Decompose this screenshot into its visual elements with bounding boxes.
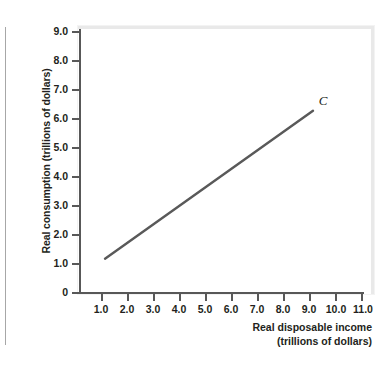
x-axis-title: Real disposable income (trillions of dol…: [120, 320, 372, 348]
consumption-function-line: [0, 0, 384, 371]
x-axis-title-line1: Real disposable income: [120, 320, 372, 334]
series-label-c: C: [319, 93, 328, 109]
x-axis-title-line2: (trillions of dollars): [120, 334, 372, 348]
series-c-line: [105, 111, 313, 259]
